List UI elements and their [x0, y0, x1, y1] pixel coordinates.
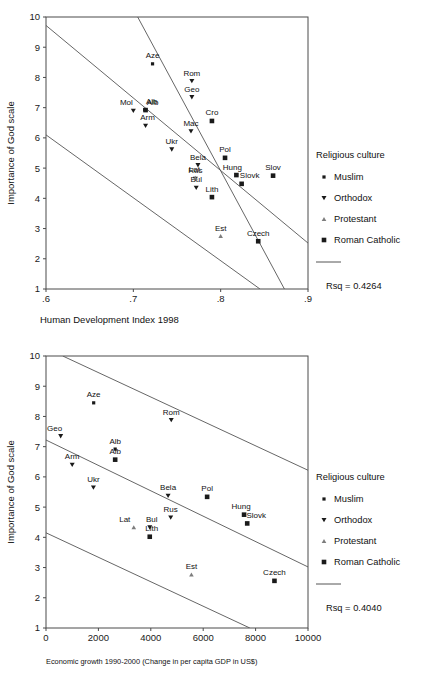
bottom-plot-svg: 123456789100200040006000800010000AzeAlbR…: [0, 340, 421, 675]
bottom-scatter-figure: 123456789100200040006000800010000AzeAlbR…: [0, 340, 421, 675]
y-tick-label: 7: [35, 102, 40, 113]
data-point-rom: [169, 418, 174, 422]
x-axis-title: Economic growth 1990-2000 (Change in per…: [46, 657, 257, 666]
point-label-hung: Hung: [232, 502, 251, 511]
data-point-rus: [168, 515, 173, 519]
data-point-est: [189, 572, 194, 576]
legend-marker-small-square: [322, 175, 325, 178]
point-label-bela: Bela: [160, 483, 177, 492]
point-label-aze: Aze: [146, 51, 160, 60]
point-label-lat: Lat: [119, 515, 131, 524]
point-label-bul: Bul: [146, 515, 158, 524]
point-label-mol: Mol: [120, 98, 133, 107]
fit-line-upper-ci: [63, 356, 308, 470]
point-label-pol: Pol: [201, 484, 213, 493]
top-plot-svg: 12345678910.6.7.8.9AzeAlbRomGeoMolArmMac…: [0, 0, 421, 340]
data-point-czech: [272, 579, 277, 584]
point-label-czech: Czech: [263, 568, 286, 577]
point-label-geo: Geo: [184, 85, 200, 94]
data-point-lat: [131, 525, 136, 529]
y-tick-label: 6: [35, 471, 40, 482]
legend-label-orthodox: Orthodox: [334, 193, 373, 203]
legend-marker-up-triangle: [322, 217, 327, 221]
y-tick-label: 5: [35, 502, 40, 513]
data-point-mac: [188, 129, 193, 133]
x-tick-label: 6000: [193, 632, 214, 643]
legend-label-orthodox: Orthodox: [334, 515, 373, 525]
legend-title: Religious culture: [316, 472, 385, 482]
y-tick-label: 8: [35, 411, 40, 422]
fit-line-lower-ci: [46, 533, 250, 628]
x-tick-label: 10000: [295, 632, 321, 643]
point-label-arm: Arm: [65, 452, 80, 461]
fit-line-regression: [46, 25, 308, 243]
point-label-lith: Lith: [205, 185, 218, 194]
point-label-bela: Bela: [190, 153, 207, 162]
y-tick-label: 2: [35, 253, 40, 264]
point-label-ukr: Ukr: [87, 475, 100, 484]
fit-line-lower-ci: [46, 135, 260, 289]
data-point-hung: [234, 173, 239, 178]
y-tick-label: 9: [35, 42, 40, 53]
point-label-bul: Bul: [190, 175, 202, 184]
legend-marker-up-triangle: [322, 539, 327, 543]
point-label-slovk: Slovk: [240, 171, 261, 180]
data-points-group: AzeAlbRomGeoMolArmMacUkrBelaRusBulLatEst…: [120, 51, 281, 243]
rsq-label: Rsq = 0.4264: [326, 281, 382, 291]
point-label-pol: Pol: [219, 145, 231, 154]
legend-label-roman-catholic: Roman Catholic: [334, 235, 400, 245]
y-tick-label: 4: [35, 193, 40, 204]
data-point-est: [218, 234, 223, 238]
y-tick-label: 9: [35, 381, 40, 392]
data-point-czech: [256, 239, 261, 244]
data-point-rom: [189, 79, 194, 83]
legend-label-protestant: Protestant: [334, 536, 377, 546]
data-point-ukr: [91, 485, 96, 489]
data-point-geo: [58, 434, 63, 438]
legend-title: Religious culture: [316, 150, 385, 160]
point-label-geo: Geo: [47, 424, 63, 433]
point-label-rus: Rus: [164, 505, 178, 514]
y-tick-label: 8: [35, 72, 40, 83]
x-axis-title: Human Development Index 1998: [40, 314, 179, 325]
point-label-czech: Czech: [247, 229, 270, 238]
point-label-est: Est: [186, 562, 198, 571]
legend-marker-large-square: [322, 238, 327, 243]
legend-label-protestant: Protestant: [334, 214, 377, 224]
legend-marker-large-square: [322, 560, 327, 565]
x-tick-label: .6: [42, 293, 50, 304]
legend-marker-small-square: [322, 497, 325, 500]
point-label-alb: Alb: [147, 98, 159, 107]
point-label-lith: Lith: [145, 524, 158, 533]
legend-marker-down-triangle: [322, 196, 327, 200]
data-point-alb: [113, 457, 118, 462]
y-tick-label: 3: [35, 223, 40, 234]
point-label-slov: Slov: [265, 163, 281, 172]
data-point-arm: [143, 124, 148, 128]
legend-label-roman-catholic: Roman Catholic: [334, 557, 400, 567]
data-point-lith: [210, 195, 215, 200]
point-label-rom: Rom: [163, 408, 180, 417]
data-point-mol: [131, 109, 136, 113]
legend-marker-down-triangle: [322, 518, 327, 522]
plot-frame: [46, 356, 308, 628]
data-point-pol: [223, 156, 228, 161]
fit-lines-group: [46, 17, 308, 289]
data-point-bul: [194, 186, 199, 190]
fit-line-regression: [46, 440, 308, 567]
top-scatter-figure: 12345678910.6.7.8.9AzeAlbRomGeoMolArmMac…: [0, 0, 421, 340]
point-label-est: Est: [215, 224, 227, 233]
x-tick-label: .7: [129, 293, 137, 304]
point-label-alb: Alb: [109, 447, 121, 456]
point-label-lat: Lat: [189, 165, 201, 174]
y-tick-label: 10: [29, 350, 40, 361]
data-point-lith: [147, 534, 152, 539]
x-tick-label: .8: [217, 293, 225, 304]
point-label-rom: Rom: [183, 69, 200, 78]
point-label-hung: Hung: [223, 163, 242, 172]
data-point-slovk: [245, 521, 250, 526]
y-tick-label: 4: [35, 532, 40, 543]
data-points-group: AzeAlbRomGeoArmUkrBelaRusBulLatEstAlbPol…: [47, 390, 286, 583]
x-tick-label: 8000: [245, 632, 266, 643]
x-tick-label: .9: [304, 293, 312, 304]
